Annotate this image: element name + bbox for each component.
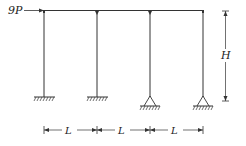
pinned-support-icon (193, 96, 213, 110)
fixed-support-icon (34, 97, 55, 101)
load-arrow: 9P (8, 4, 44, 17)
frame-diagram: 9P (0, 0, 246, 146)
load-label: 9P (8, 4, 23, 17)
height-label: H (220, 49, 231, 62)
fixed-support-icon (87, 97, 108, 101)
span-dimension: L L L (44, 125, 203, 136)
span-label-2: L (117, 125, 125, 136)
span-label-3: L (170, 125, 178, 136)
pinned-support-icon (140, 96, 160, 110)
hinge-joint-3 (148, 11, 152, 15)
joint-4 (202, 10, 204, 13)
joint-1 (43, 10, 45, 13)
span-label-1: L (64, 125, 72, 136)
height-dimension: H (220, 11, 231, 101)
hinge-joint-2 (95, 11, 99, 15)
